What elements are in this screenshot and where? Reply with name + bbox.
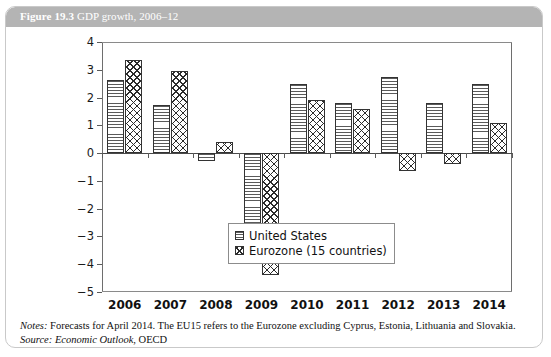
- legend-item-eurozone: Eurozone (15 countries): [235, 243, 387, 258]
- y-tick: [97, 181, 102, 182]
- notes-line: Notes: Forecasts for April 2014. The EU1…: [20, 319, 532, 333]
- y-tick: [97, 292, 102, 293]
- chart-area: 43210−1−2−3−4−5 200620072008200920102011…: [6, 27, 543, 315]
- bar-2014-united-states: [472, 84, 489, 153]
- y-tick-label: 1: [87, 118, 94, 132]
- bar-2010-united-states: [290, 84, 307, 153]
- x-tick: [239, 153, 240, 158]
- x-tick: [102, 153, 103, 158]
- y-tick-label: −5: [77, 285, 94, 299]
- source-label: Source:: [20, 334, 52, 345]
- y-tick: [97, 70, 102, 71]
- x-tick-label-2008: 2008: [199, 298, 232, 312]
- x-tick: [375, 153, 376, 158]
- bar-2011-eurozone: [353, 109, 370, 153]
- bar-2007-eurozone: [171, 71, 188, 153]
- x-tick: [193, 153, 194, 158]
- x-tick-label-2013: 2013: [427, 298, 460, 312]
- x-tick: [421, 153, 422, 158]
- x-tick-label-2007: 2007: [154, 298, 187, 312]
- source-line: Source: Economic Outlook, OECD: [20, 333, 532, 347]
- x-tick-label-2009: 2009: [245, 298, 278, 312]
- source-org: , OECD: [133, 334, 167, 345]
- bar-2006-eurozone: [125, 60, 142, 153]
- x-tick-label-2014: 2014: [473, 298, 506, 312]
- figure-card: Figure 19.3 GDP growth, 2006–12 43210−1−…: [5, 6, 543, 348]
- legend-swatch-united-states: [235, 231, 244, 240]
- source-publication: Economic Outlook: [52, 334, 133, 345]
- x-tick: [148, 153, 149, 158]
- y-tick-label: −3: [77, 229, 94, 243]
- y-tick-label: −4: [77, 257, 94, 271]
- legend-label-united-states: United States: [249, 229, 327, 243]
- bar-2013-united-states: [426, 103, 443, 153]
- y-tick: [97, 209, 102, 210]
- figure-header-bar: Figure 19.3 GDP growth, 2006–12: [6, 7, 543, 27]
- notes-text: Forecasts for April 2014. The EU15 refer…: [47, 320, 515, 331]
- y-tick: [97, 236, 102, 237]
- y-tick-label: 0: [87, 146, 94, 160]
- y-tick-label: 4: [87, 35, 94, 49]
- x-tick-label-2012: 2012: [381, 298, 414, 312]
- bar-2014-eurozone: [490, 123, 507, 154]
- chart-legend: United States Eurozone (15 countries): [228, 223, 395, 264]
- y-tick: [97, 98, 102, 99]
- x-tick: [284, 153, 285, 158]
- figure-notes: Notes: Forecasts for April 2014. The EU1…: [20, 319, 532, 346]
- bar-2012-united-states: [381, 77, 398, 153]
- bar-2013-eurozone: [444, 153, 461, 164]
- legend-label-eurozone: Eurozone (15 countries): [249, 244, 387, 258]
- y-axis-line: [102, 42, 103, 292]
- y-tick: [97, 264, 102, 265]
- bar-2011-united-states: [335, 103, 352, 153]
- y-tick-label: −2: [77, 202, 94, 216]
- x-tick: [330, 153, 331, 158]
- figure-number: Figure 19.3: [20, 10, 74, 22]
- legend-item-united-states: United States: [235, 228, 387, 243]
- y-tick: [97, 42, 102, 43]
- bar-2010-eurozone: [308, 100, 325, 153]
- legend-swatch-eurozone: [235, 246, 244, 255]
- y-tick-label: −1: [77, 174, 94, 188]
- figure-caption: Figure 19.3 GDP growth, 2006–12: [20, 10, 178, 22]
- y-tick-label: 3: [87, 63, 94, 77]
- bar-2007-united-states: [153, 105, 170, 154]
- plot-top-border: [102, 42, 512, 43]
- x-tick: [512, 153, 513, 158]
- figure-title: GDP growth, 2006–12: [77, 10, 178, 22]
- x-tick-label-2011: 2011: [336, 298, 369, 312]
- plot-right-border: [511, 42, 512, 292]
- bar-2009-united-states: [244, 153, 261, 232]
- plot-bottom-border: [102, 291, 512, 292]
- y-tick: [97, 125, 102, 126]
- bar-2006-united-states: [107, 80, 124, 154]
- bar-2008-eurozone: [216, 142, 233, 153]
- x-tick-label-2010: 2010: [290, 298, 323, 312]
- x-tick: [466, 153, 467, 158]
- bar-2012-eurozone: [399, 153, 416, 171]
- y-tick-label: 2: [87, 91, 94, 105]
- notes-label: Notes:: [20, 320, 47, 331]
- bar-2008-united-states: [198, 153, 215, 161]
- x-tick-label-2006: 2006: [108, 298, 141, 312]
